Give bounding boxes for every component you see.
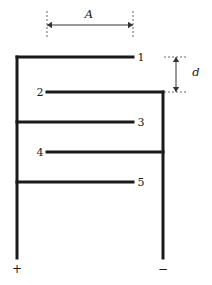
negative-terminal-label: − <box>158 263 168 275</box>
plate-label-1: 1 <box>138 52 145 63</box>
dimension-a-arrowhead-left <box>47 22 52 28</box>
dimension-d-arrowhead-bottom <box>173 87 179 92</box>
plate-label-2: 2 <box>37 87 44 98</box>
plate-label-4: 4 <box>37 147 44 158</box>
dimension-a-label: A <box>85 9 93 21</box>
dimension-a-arrowhead-right <box>128 22 133 28</box>
plate-label-5: 5 <box>138 177 145 188</box>
plate-label-3: 3 <box>138 117 145 128</box>
positive-terminal-label: + <box>12 263 22 275</box>
dimension-d-label: d <box>192 67 199 79</box>
figure-canvas <box>0 0 212 285</box>
dimension-d-group <box>164 57 188 92</box>
capacitor-stack-figure: A d + − 12345 <box>0 0 212 285</box>
dimension-d-arrowhead-top <box>173 57 179 62</box>
